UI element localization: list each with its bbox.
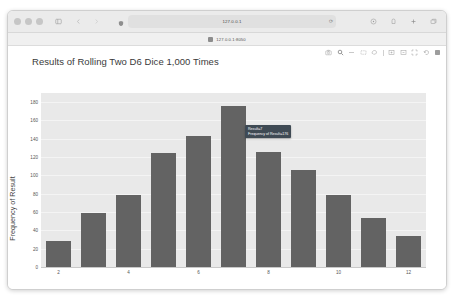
shield-icon[interactable]	[118, 13, 124, 31]
bar-cell[interactable]	[251, 93, 286, 267]
bar-2[interactable]	[46, 241, 72, 267]
reload-icon[interactable]: ⟳	[329, 19, 333, 24]
maximize-button[interactable]	[36, 18, 43, 25]
x-tick-cell: 6	[181, 270, 216, 278]
x-tick-label: 8	[267, 270, 270, 278]
bar-6[interactable]	[186, 136, 212, 267]
x-tick-label: 6	[197, 270, 200, 278]
y-tick-label: 60	[33, 210, 38, 215]
y-tick-label: 0	[35, 265, 38, 270]
page-content: Results of Rolling Two D6 Dice 1,000 Tim…	[8, 46, 446, 290]
bar-cell[interactable]	[181, 93, 216, 267]
window-controls[interactable]	[14, 18, 43, 25]
x-tick-cell	[286, 270, 321, 278]
url-text: 127.0.0.1	[222, 19, 241, 24]
x-tick-label: 10	[336, 270, 341, 278]
x-axis-ticks: 24681012	[41, 270, 426, 278]
bar-3[interactable]	[81, 213, 107, 267]
screenshot-root: 127.0.0.1 ⟳ 12	[0, 0, 452, 298]
x-tick-cell	[76, 270, 111, 278]
page-icon	[208, 37, 213, 42]
y-tick-label: 100	[30, 173, 38, 178]
bar-cell[interactable]	[41, 93, 76, 267]
bookmark-label[interactable]: 127.0.0.1:8050	[216, 37, 245, 42]
sidebar-icon[interactable]	[52, 15, 65, 28]
bar-11[interactable]	[361, 218, 387, 267]
bar-cell[interactable]	[321, 93, 356, 267]
address-bar[interactable]: 127.0.0.1 ⟳	[128, 15, 336, 28]
bar-7[interactable]	[221, 106, 247, 267]
bar-cell[interactable]	[216, 93, 251, 267]
bar-4[interactable]	[116, 195, 142, 267]
plot-area: 020406080100120140160180	[41, 93, 426, 267]
y-tick-label: 40	[33, 228, 38, 233]
x-tick-label: 2	[57, 270, 60, 278]
bar-10[interactable]	[326, 195, 352, 267]
x-tick-label: 4	[127, 270, 130, 278]
chart-title: Results of Rolling Two D6 Dice 1,000 Tim…	[32, 56, 219, 67]
download-icon[interactable]	[387, 15, 400, 28]
plus-icon[interactable]	[407, 15, 420, 28]
x-tick-cell: 4	[111, 270, 146, 278]
bar-12[interactable]	[396, 236, 422, 267]
bar-cell[interactable]	[111, 93, 146, 267]
x-tick-cell: 10	[321, 270, 356, 278]
share-icon[interactable]	[367, 15, 380, 28]
nav-arrows[interactable]	[72, 15, 103, 28]
plotly-chart: Results of Rolling Two D6 Dice 1,000 Tim…	[8, 46, 446, 290]
y-tick-label: 20	[33, 246, 38, 251]
y-tick-label: 160	[30, 118, 38, 123]
x-axis-line	[41, 267, 426, 268]
bars-layer[interactable]	[41, 93, 426, 267]
x-tick-cell: 2	[41, 270, 76, 278]
x-tick-cell	[146, 270, 181, 278]
bar-cell[interactable]	[146, 93, 181, 267]
bar-5[interactable]	[151, 153, 177, 267]
bar-cell[interactable]	[76, 93, 111, 267]
x-tick-label: 12	[406, 270, 411, 278]
bookmarks-bar: 127.0.0.1:8050	[8, 33, 446, 46]
address-bar-container[interactable]: 127.0.0.1 ⟳	[118, 13, 336, 31]
x-tick-cell	[216, 270, 251, 278]
x-tick-cell: 12	[391, 270, 426, 278]
tab-overview-icon[interactable]	[427, 15, 440, 28]
forward-icon[interactable]	[90, 15, 103, 28]
y-tick-label: 120	[30, 155, 38, 160]
bar-cell[interactable]	[391, 93, 426, 267]
bar-9[interactable]	[291, 170, 317, 267]
x-tick-cell: 8	[251, 270, 286, 278]
bar-8[interactable]	[256, 152, 282, 267]
bar-cell[interactable]	[356, 93, 391, 267]
back-icon[interactable]	[72, 15, 85, 28]
y-tick-label: 140	[30, 136, 38, 141]
browser-toolbar: 127.0.0.1 ⟳	[8, 11, 446, 33]
tooltip-line-2: Frequency of Result=176	[248, 132, 288, 137]
y-tick-label: 80	[33, 191, 38, 196]
x-tick-cell	[356, 270, 391, 278]
browser-window: 127.0.0.1 ⟳ 12	[7, 10, 447, 290]
toolbar-right-icons[interactable]	[367, 15, 440, 28]
y-axis-label: Frequency of Result	[8, 176, 17, 240]
close-button[interactable]	[14, 18, 21, 25]
y-tick-label: 180	[30, 100, 38, 105]
hover-tooltip: Result=7 Frequency of Result=176	[245, 125, 291, 138]
bar-cell[interactable]	[286, 93, 321, 267]
minimize-button[interactable]	[25, 18, 32, 25]
